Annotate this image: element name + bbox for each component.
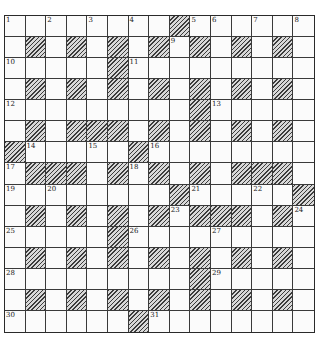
answer-cell[interactable]: 31 (149, 311, 170, 332)
answer-cell[interactable] (108, 142, 129, 163)
answer-cell[interactable] (108, 100, 129, 121)
answer-cell[interactable] (170, 311, 191, 332)
answer-cell[interactable] (129, 248, 150, 269)
answer-cell[interactable] (211, 79, 232, 100)
answer-cell[interactable] (232, 142, 253, 163)
answer-cell[interactable] (46, 121, 67, 142)
answer-cell[interactable] (87, 248, 108, 269)
answer-cell[interactable]: 13 (211, 100, 232, 121)
answer-cell[interactable] (252, 37, 273, 58)
answer-cell[interactable] (273, 311, 294, 332)
answer-cell[interactable] (293, 100, 314, 121)
answer-cell[interactable]: 4 (129, 16, 150, 37)
answer-cell[interactable] (67, 100, 88, 121)
answer-cell[interactable] (87, 269, 108, 290)
answer-cell[interactable] (211, 248, 232, 269)
answer-cell[interactable] (170, 121, 191, 142)
answer-cell[interactable]: 12 (5, 100, 26, 121)
answer-cell[interactable] (273, 16, 294, 37)
answer-cell[interactable] (149, 227, 170, 248)
answer-cell[interactable] (170, 79, 191, 100)
answer-cell[interactable] (87, 206, 108, 227)
answer-cell[interactable]: 23 (170, 206, 191, 227)
answer-cell[interactable] (293, 248, 314, 269)
answer-cell[interactable]: 18 (129, 163, 150, 184)
answer-cell[interactable] (26, 16, 47, 37)
answer-cell[interactable]: 25 (5, 227, 26, 248)
answer-cell[interactable] (252, 290, 273, 311)
answer-cell[interactable] (46, 206, 67, 227)
answer-cell[interactable] (26, 58, 47, 79)
answer-cell[interactable] (252, 248, 273, 269)
answer-cell[interactable] (211, 37, 232, 58)
answer-cell[interactable] (170, 227, 191, 248)
answer-cell[interactable] (211, 121, 232, 142)
answer-cell[interactable] (190, 142, 211, 163)
answer-cell[interactable] (232, 185, 253, 206)
answer-cell[interactable] (211, 185, 232, 206)
answer-cell[interactable] (252, 79, 273, 100)
answer-cell[interactable] (232, 269, 253, 290)
answer-cell[interactable] (232, 16, 253, 37)
answer-cell[interactable] (293, 79, 314, 100)
answer-cell[interactable] (108, 311, 129, 332)
answer-cell[interactable] (129, 37, 150, 58)
answer-cell[interactable] (273, 58, 294, 79)
answer-cell[interactable] (87, 163, 108, 184)
answer-cell[interactable] (232, 58, 253, 79)
answer-cell[interactable] (46, 248, 67, 269)
answer-cell[interactable] (211, 311, 232, 332)
answer-cell[interactable] (190, 227, 211, 248)
answer-cell[interactable]: 1 (5, 16, 26, 37)
answer-cell[interactable] (87, 37, 108, 58)
answer-cell[interactable] (46, 100, 67, 121)
answer-cell[interactable]: 21 (190, 185, 211, 206)
answer-cell[interactable] (46, 290, 67, 311)
answer-cell[interactable]: 15 (87, 142, 108, 163)
answer-cell[interactable]: 22 (252, 185, 273, 206)
answer-cell[interactable] (232, 227, 253, 248)
answer-cell[interactable] (190, 311, 211, 332)
answer-cell[interactable] (252, 227, 273, 248)
answer-cell[interactable] (46, 37, 67, 58)
answer-cell[interactable] (129, 185, 150, 206)
answer-cell[interactable] (129, 79, 150, 100)
answer-cell[interactable] (273, 227, 294, 248)
answer-cell[interactable] (26, 227, 47, 248)
answer-cell[interactable]: 26 (129, 227, 150, 248)
answer-cell[interactable] (293, 290, 314, 311)
answer-cell[interactable] (87, 227, 108, 248)
answer-cell[interactable] (5, 121, 26, 142)
answer-cell[interactable] (273, 269, 294, 290)
answer-cell[interactable]: 30 (5, 311, 26, 332)
answer-cell[interactable] (46, 79, 67, 100)
answer-cell[interactable] (5, 290, 26, 311)
answer-cell[interactable] (170, 100, 191, 121)
answer-cell[interactable] (190, 58, 211, 79)
answer-cell[interactable] (87, 185, 108, 206)
answer-cell[interactable] (46, 142, 67, 163)
answer-cell[interactable] (273, 185, 294, 206)
answer-cell[interactable] (67, 269, 88, 290)
answer-cell[interactable] (129, 100, 150, 121)
answer-cell[interactable] (108, 185, 129, 206)
answer-cell[interactable] (67, 58, 88, 79)
answer-cell[interactable] (5, 37, 26, 58)
answer-cell[interactable] (129, 206, 150, 227)
answer-cell[interactable] (87, 100, 108, 121)
answer-cell[interactable] (129, 290, 150, 311)
answer-cell[interactable] (129, 121, 150, 142)
answer-cell[interactable] (26, 311, 47, 332)
answer-cell[interactable] (293, 227, 314, 248)
answer-cell[interactable] (5, 248, 26, 269)
answer-cell[interactable] (87, 58, 108, 79)
answer-cell[interactable] (293, 58, 314, 79)
answer-cell[interactable] (5, 206, 26, 227)
answer-cell[interactable] (293, 311, 314, 332)
answer-cell[interactable] (87, 311, 108, 332)
answer-cell[interactable] (252, 142, 273, 163)
answer-cell[interactable] (108, 269, 129, 290)
answer-cell[interactable] (170, 142, 191, 163)
answer-cell[interactable] (273, 100, 294, 121)
answer-cell[interactable] (252, 269, 273, 290)
